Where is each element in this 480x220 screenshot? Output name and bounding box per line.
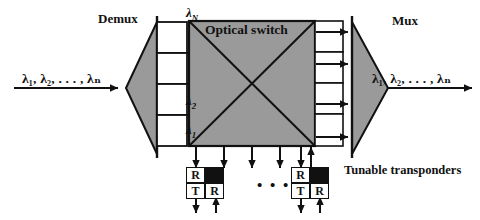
figure-canvas: Demux Mux Optical switch Tunable transpo… bbox=[0, 0, 480, 220]
port-box-lambda-N bbox=[157, 22, 187, 53]
demux-block[interactable] bbox=[126, 16, 157, 158]
optical-switch-label: Optical switch bbox=[205, 23, 288, 37]
switch-drop-arrows bbox=[196, 146, 301, 168]
output-wavelengths-label: λ₁, λ₂, . . . , λₙ bbox=[372, 72, 451, 86]
tunable-transponders-label: Tunable transponders bbox=[344, 164, 461, 177]
mux-label: Mux bbox=[392, 14, 418, 27]
mux-port-boxes bbox=[315, 21, 343, 146]
transponder-right-receiver-bot[interactable]: R bbox=[310, 183, 329, 199]
port-label-lambda-N: λN bbox=[186, 6, 198, 22]
transponder-left-receiver-bot[interactable]: R bbox=[205, 183, 224, 199]
transponder-right-receiver-top[interactable]: R bbox=[291, 167, 310, 183]
transponder-left-tuner-block[interactable] bbox=[205, 167, 224, 183]
transponder-left-transmitter[interactable]: T bbox=[186, 183, 205, 199]
port-label-lambda-2: λ2 bbox=[186, 94, 196, 110]
optical-switch-block[interactable] bbox=[189, 21, 315, 146]
transponder-right-tuner-block[interactable] bbox=[310, 167, 329, 183]
port-box-blank bbox=[157, 53, 187, 84]
port-box-lambda-2 bbox=[157, 84, 187, 115]
transponder-left-receiver-top[interactable]: R bbox=[186, 167, 205, 183]
input-wavelengths-label: λ₁, λ₂, . . . , λₙ bbox=[22, 72, 101, 86]
mux-block[interactable] bbox=[352, 16, 388, 158]
transponder-ellipsis: • • • bbox=[257, 178, 290, 193]
transponder-right-transmitter[interactable]: T bbox=[291, 183, 310, 199]
demux-label: Demux bbox=[98, 12, 138, 25]
demux-port-boxes bbox=[157, 22, 187, 146]
port-box-lambda-1 bbox=[157, 115, 187, 146]
port-label-lambda-1: λ1 bbox=[186, 123, 196, 139]
